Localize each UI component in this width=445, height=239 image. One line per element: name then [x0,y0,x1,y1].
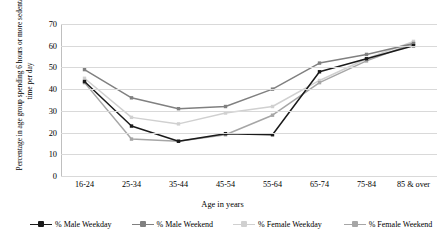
y-tick-label-70: 70 [33,20,57,29]
data-point [271,105,274,108]
gridline-20 [61,133,437,134]
series-line [85,46,414,142]
y-axis-tick-labels: 010203040506070 [28,24,57,176]
series-line [85,44,414,109]
data-point [130,124,133,127]
legend-item-female-weekday[interactable]: % Female Weekday [233,220,322,229]
gridline-60 [61,46,437,47]
gridline-70 [61,24,437,25]
x-axis-title: Age in years [0,200,445,209]
data-point [177,122,180,125]
gridline-10 [61,154,437,155]
x-tick-label-16-24: 16-24 [75,180,94,189]
y-tick-label-10: 10 [33,150,57,159]
legend-label: % Female Weekend [369,220,433,229]
legend-item-male-weekend[interactable]: % Male Weekend [132,220,214,229]
plot-area [61,24,437,176]
x-tick-label-65-74: 65-74 [310,180,329,189]
legend-label: % Male Weekday [55,220,112,229]
data-point [365,57,368,60]
y-tick-label-60: 60 [33,41,57,50]
y-tick-label-20: 20 [33,128,57,137]
sedentary-time-line-chart: Percentage in age group spending 6 hours… [0,0,445,239]
data-point [83,77,86,80]
x-tick-label-85-over: 85 & over [397,180,430,189]
series-male-weekday [83,44,415,143]
data-point [130,137,133,140]
data-point [83,80,86,83]
data-point [318,70,321,73]
gridline-50 [61,67,437,68]
gridline-30 [61,111,437,112]
data-point [130,116,133,119]
x-tick-label-45-54: 45-54 [216,180,235,189]
legend-marker-icon [132,220,154,229]
gridline-0 [61,176,437,177]
data-series-layer [61,24,437,176]
y-tick-label-40: 40 [33,85,57,94]
data-point [318,61,321,64]
data-point [318,81,321,84]
chart-legend: % Male Weekday% Male Weekend% Female Wee… [30,216,430,232]
y-axis-line [61,24,62,176]
data-point [130,96,133,99]
data-point [224,105,227,108]
series-male-weekend [83,42,415,111]
data-point [365,53,368,56]
data-point [177,140,180,143]
x-axis-tick-labels: 16-2425-3435-4445-5455-6465-7475-8485 & … [61,179,437,193]
x-tick-label-75-84: 75-84 [357,180,376,189]
x-tick-label-25-34: 25-34 [122,180,141,189]
x-tick-label-55-64: 55-64 [263,180,282,189]
series-female-weekday [83,40,415,126]
gridline-40 [61,89,437,90]
legend-marker-icon [344,220,366,229]
legend-label: % Male Weekend [157,220,214,229]
y-tick-label-50: 50 [33,63,57,72]
y-tick-label-30: 30 [33,106,57,115]
legend-marker-icon [233,220,255,229]
y-tick-label-0: 0 [33,172,57,181]
legend-item-female-weekend[interactable]: % Female Weekend [344,220,433,229]
legend-marker-icon [30,220,52,229]
legend-label: % Female Weekday [258,220,322,229]
data-point [271,114,274,117]
series-female-weekend [83,42,415,143]
legend-item-male-weekday[interactable]: % Male Weekday [30,220,112,229]
x-tick-label-35-44: 35-44 [169,180,188,189]
